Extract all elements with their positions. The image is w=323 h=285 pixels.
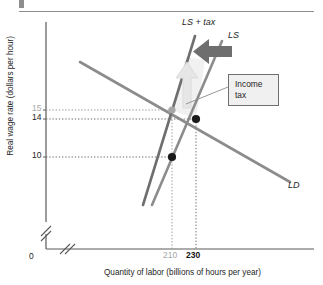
curve-label-ls: LS: [228, 30, 239, 40]
x-tick-label-230: 230: [186, 251, 200, 261]
curve-label-ls-plus-tax: LS + tax: [182, 17, 215, 27]
chart-plot-area: [0, 0, 323, 285]
point-marker-wage-paid: [168, 106, 175, 113]
income-tax-callout-line1: Income: [235, 79, 273, 90]
guide-lines: [46, 110, 196, 249]
curve-label-ld: LD: [288, 180, 300, 190]
y-axis-title: Real wage rate (dollars per hour): [6, 36, 15, 156]
point-marker-no-tax-equilibrium: [192, 115, 200, 123]
x-axis-title: Quantity of labor (billions of hours per…: [104, 268, 261, 277]
y-tick-label-14: 14: [32, 113, 41, 123]
x-tick-label-210: 210: [163, 251, 177, 261]
y-tick-label-10: 10: [32, 151, 41, 161]
income-tax-callout-line2: tax: [235, 90, 273, 101]
point-marker-wage-received: [168, 153, 176, 161]
income-tax-callout-box: Income tax: [228, 74, 279, 106]
figure-container: FIGURE 13.5: [0, 0, 323, 285]
origin-label: 0: [29, 252, 34, 262]
